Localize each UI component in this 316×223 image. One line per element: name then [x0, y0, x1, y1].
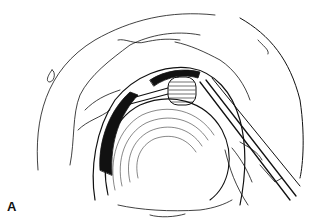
panel-label: A: [7, 199, 16, 214]
illustration-drawing: [0, 0, 316, 223]
surgical-illustration: A: [0, 0, 316, 223]
